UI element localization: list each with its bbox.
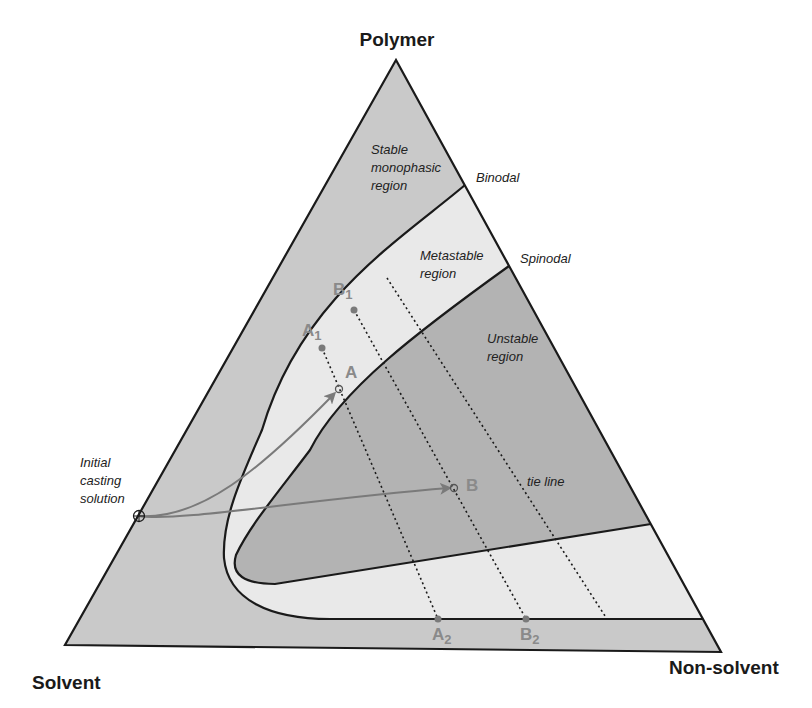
point-a2 — [435, 616, 442, 623]
point-label-b: B — [466, 476, 478, 495]
binodal-label: Binodal — [476, 170, 520, 185]
spinodal-label: Spinodal — [520, 251, 572, 266]
point-label-a: A — [345, 363, 357, 382]
lower-strip — [60, 619, 760, 659]
point-a1 — [319, 345, 326, 352]
vertex-label-polymer: Polymer — [360, 29, 436, 50]
tie-line-label: tie line — [527, 474, 565, 489]
vertex-label-solvent: Solvent — [32, 672, 101, 693]
ternary-diagram: Polymer Solvent Non-solvent Binodal Spin… — [0, 0, 812, 708]
point-b1 — [351, 307, 358, 314]
initial-point-icon — [134, 511, 145, 522]
point-b2 — [523, 616, 530, 623]
vertex-label-non-solvent: Non-solvent — [669, 657, 779, 678]
initial-casting-solution-label: Initial casting solution — [80, 455, 125, 506]
